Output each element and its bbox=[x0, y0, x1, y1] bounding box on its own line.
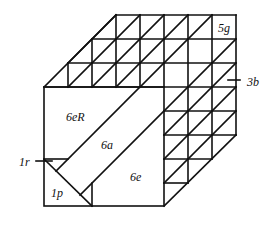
label-1r: 1r bbox=[19, 155, 30, 169]
label-5g: 5g bbox=[218, 21, 230, 35]
label-6eR: 6eR bbox=[66, 110, 85, 124]
right-face-grid bbox=[164, 63, 236, 206]
label-6a: 6a bbox=[101, 138, 113, 152]
label-3b: 3b bbox=[246, 75, 259, 89]
label-6e: 6e bbox=[130, 170, 142, 184]
label-1p: 1p bbox=[51, 186, 63, 200]
cube-diagram: 5g 3b 6eR 6a 6e 1r 1p bbox=[0, 0, 275, 225]
